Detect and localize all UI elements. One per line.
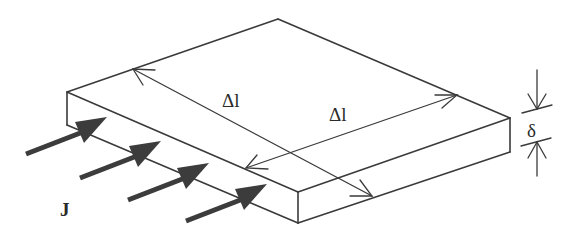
label-thickness-delta: δ <box>527 120 536 141</box>
slab-diagram: Δl Δl δ J <box>0 0 580 237</box>
slab-bottom-right-edge <box>298 152 510 223</box>
thickness-dimension <box>521 70 552 176</box>
label-current-density-J: J <box>60 199 70 220</box>
slab-top-front-right-edge <box>298 118 510 192</box>
dimension-arrow-delta-l-2 <box>246 95 457 168</box>
slab-top-back-right-edge <box>278 19 510 118</box>
flux-arrowhead-icon <box>235 184 267 210</box>
flux-arrowhead-icon <box>177 163 209 189</box>
label-delta-l-1: Δl <box>222 90 240 111</box>
slab <box>67 19 510 223</box>
slab-top-back-left-edge <box>67 19 278 92</box>
flux-arrow-4 <box>186 184 267 221</box>
label-delta-l-2: Δl <box>329 104 347 125</box>
dimension-arrow-delta-l-1 <box>133 69 372 196</box>
